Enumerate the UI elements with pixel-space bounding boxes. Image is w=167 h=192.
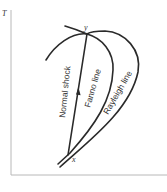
t-s-diagram: T y x Normal shock Fanno line Rayleigh l…	[0, 0, 167, 192]
arrow-up-icon	[76, 87, 81, 95]
rayleigh-line-curve	[60, 26, 139, 167]
normal-shock-label: Normal shock	[57, 65, 72, 118]
y-axis-label: T	[2, 9, 7, 18]
fanno-line-label: Fanno line	[82, 67, 103, 108]
fanno-line-curve	[46, 34, 113, 164]
rayleigh-line-label: Rayleigh line	[101, 69, 134, 116]
point-y-label: y	[83, 23, 88, 32]
point-x-label: x	[71, 155, 76, 164]
